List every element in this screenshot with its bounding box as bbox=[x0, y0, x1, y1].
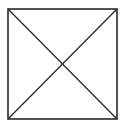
square-diagram bbox=[0, 0, 130, 126]
